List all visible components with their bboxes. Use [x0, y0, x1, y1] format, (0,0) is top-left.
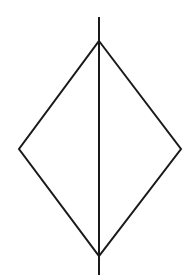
diagram-canvas	[0, 0, 188, 277]
